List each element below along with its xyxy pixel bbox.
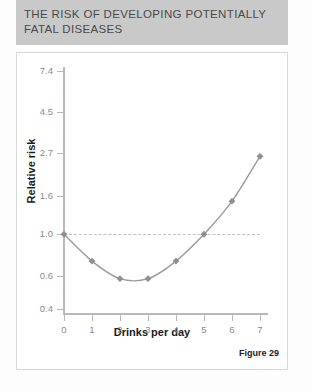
figure-title-line-2: FATAL DISEASES <box>24 22 278 37</box>
chart-panel: Relative risk Drinks per day Figure 29 7… <box>16 52 288 370</box>
figure-title-line-1: THE RISK OF DEVELOPING POTENTIALLY <box>24 7 278 22</box>
series-graphic <box>17 53 289 371</box>
data-point-marker[interactable] <box>145 275 152 282</box>
figure-page: THE RISK OF DEVELOPING POTENTIALLY FATAL… <box>0 0 312 391</box>
plot-area: Relative risk Drinks per day Figure 29 7… <box>17 53 287 369</box>
data-point-marker[interactable] <box>257 153 264 160</box>
figure-header: THE RISK OF DEVELOPING POTENTIALLY FATAL… <box>16 0 288 45</box>
data-point-marker[interactable] <box>117 275 124 282</box>
